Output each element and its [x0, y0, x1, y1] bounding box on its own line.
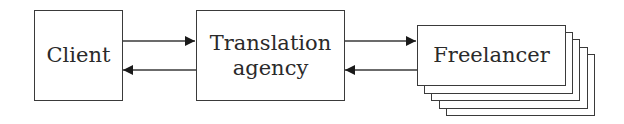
agency-label-line2: agency	[233, 56, 309, 81]
agency-label-line1: Translation	[210, 31, 331, 56]
freelancer-box: Freelancer	[417, 25, 566, 86]
freelancer-label: Freelancer	[433, 43, 549, 68]
client-label: Client	[47, 43, 111, 68]
translation-agency-box: Translation agency	[196, 10, 345, 101]
client-box: Client	[34, 10, 123, 101]
